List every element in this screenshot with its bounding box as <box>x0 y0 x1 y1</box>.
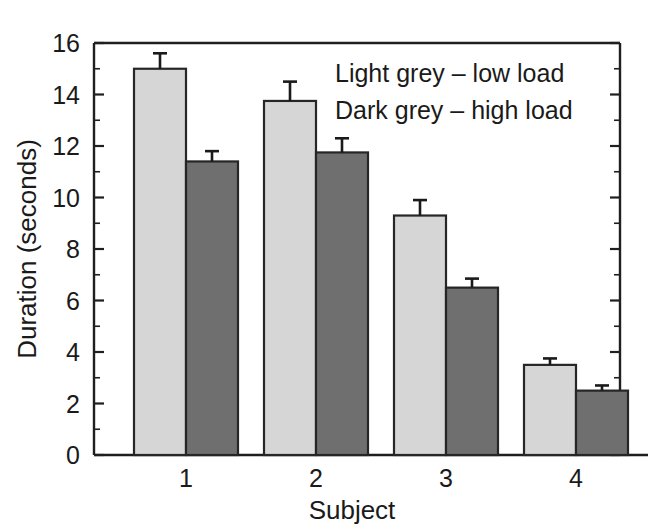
y-tick-label-0: 0 <box>66 441 80 469</box>
y-tick-label-6: 6 <box>66 287 80 315</box>
x-axis-title: Subject <box>309 495 396 525</box>
y-tick-label-12: 12 <box>52 132 80 160</box>
bar-subject-2-low-load <box>264 101 316 455</box>
bar-subject-3-low-load <box>394 216 446 455</box>
y-tick-label-14: 14 <box>52 81 80 109</box>
bar-subject-2-high-load <box>316 152 368 455</box>
y-axis-title: Duration (seconds) <box>12 139 42 359</box>
legend-entry-light-grey: Light grey – low load <box>335 59 564 87</box>
legend-entry-dark-grey: Dark grey – high load <box>335 96 573 124</box>
x-tick-label-1: 1 <box>179 464 193 492</box>
x-tick-label-4: 4 <box>569 464 583 492</box>
y-tick-label-10: 10 <box>52 184 80 212</box>
y-tick-label-8: 8 <box>66 235 80 263</box>
bar-subject-3-high-load <box>446 288 498 455</box>
y-tick-label-4: 4 <box>66 338 80 366</box>
bar-chart-figure: 0246810121416 1234 Duration (seconds) Su… <box>0 0 660 531</box>
x-tick-label-3: 3 <box>439 464 453 492</box>
chart-svg: 0246810121416 1234 Duration (seconds) Su… <box>0 0 660 531</box>
y-tick-label-2: 2 <box>66 390 80 418</box>
y-tick-label-16: 16 <box>52 29 80 57</box>
bar-subject-1-low-load <box>134 69 186 455</box>
x-tick-label-2: 2 <box>309 464 323 492</box>
bar-subject-4-low-load <box>524 365 576 455</box>
bar-subject-4-high-load <box>576 391 628 455</box>
bar-subject-1-high-load <box>186 161 238 455</box>
